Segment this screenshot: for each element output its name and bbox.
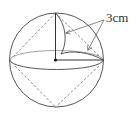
label-arrows (66, 20, 105, 51)
equator-front-arc (10, 60, 103, 70)
equator-back-arc (10, 51, 103, 60)
sphere-diagram: 3cm (0, 0, 136, 115)
center-point (54, 58, 57, 61)
radius-label: 3cm (106, 11, 128, 24)
